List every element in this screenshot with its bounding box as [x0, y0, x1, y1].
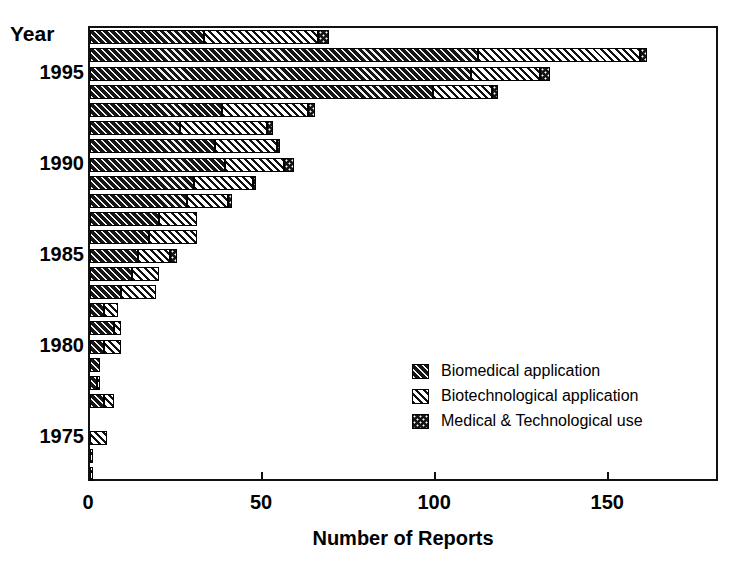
bar-segment-biotechnological: [132, 267, 160, 281]
bar-row: [90, 394, 114, 408]
x-tick-mark: [261, 472, 263, 481]
bar-row: [90, 267, 159, 281]
x-tick-mark: [607, 472, 609, 481]
bar-segment-medical-technological: [308, 103, 315, 117]
bar-segment-biomedical: [90, 48, 478, 62]
bar-segment-biomedical: [90, 321, 114, 335]
bar-segment-medical-technological: [640, 48, 647, 62]
bar-segment-biotechnological: [215, 139, 277, 153]
bar-segment-biotechnological: [194, 176, 253, 190]
bar-segment-biomedical: [90, 267, 132, 281]
y-tick-label: 1975: [0, 424, 84, 447]
bar-row: [90, 30, 329, 44]
bar-segment-biotechnological: [114, 321, 121, 335]
bar-segment-medical-technological: [277, 139, 280, 153]
bar-segment-biomedical: [90, 176, 194, 190]
bar-segment-biomedical: [90, 85, 433, 99]
legend-label-biomedical: Biomedical application: [441, 362, 600, 380]
bar-row: [90, 249, 177, 263]
bar-segment-biotechnological: [104, 394, 114, 408]
bar-chart: Year 19751980198519901995 050100150 Numb…: [0, 0, 751, 575]
bar-segment-medical-technological: [318, 30, 328, 44]
bar-row: [90, 340, 121, 354]
bar-segment-biotechnological: [187, 194, 229, 208]
bar-segment-biotechnological: [222, 103, 309, 117]
bar-segment-biomedical: [90, 376, 97, 390]
bar-row: [90, 303, 118, 317]
bar-segment-biomedical: [90, 394, 104, 408]
x-tick-label: 0: [82, 491, 93, 514]
bar-row: [90, 121, 273, 135]
x-tick-label: 150: [591, 491, 624, 514]
bar-segment-medical-technological: [228, 194, 231, 208]
bar-segment-biomedical: [90, 230, 149, 244]
legend-item-biomedical: Biomedical application: [412, 362, 643, 380]
x-tick-label: 50: [250, 491, 272, 514]
bar-segment-medical-technological: [284, 158, 294, 172]
bar-row: [90, 230, 197, 244]
bar-row: [90, 194, 232, 208]
legend-item-biotechnological: Biotechnological application: [412, 387, 643, 405]
bar-row: [90, 48, 647, 62]
bar-segment-biomedical: [90, 285, 121, 299]
bar-segment-biomedical: [90, 358, 100, 372]
x-axis-title: Number of Reports: [88, 527, 718, 550]
bar-segment-biotechnological: [90, 431, 107, 445]
bar-segment-biotechnological: [104, 340, 121, 354]
y-tick-label: 1980: [0, 333, 84, 356]
bar-segment-biomedical: [90, 158, 225, 172]
x-tick-label: 100: [417, 491, 450, 514]
bar-row: [90, 212, 197, 226]
bar-segment-biomedical: [90, 303, 104, 317]
legend-label-medical-technological: Medical & Technological use: [441, 412, 643, 430]
bar-segment-biotechnological: [478, 48, 641, 62]
y-tick-label: 1995: [0, 60, 84, 83]
bar-row: [90, 449, 93, 463]
bar-segment-biomedical: [90, 194, 187, 208]
bar-segment-biotechnological: [121, 285, 156, 299]
bar-segment-biotechnological: [97, 376, 100, 390]
bar-row: [90, 158, 294, 172]
bar-segment-medical-technological: [253, 176, 256, 190]
x-axis-ticks: 050100150: [88, 481, 718, 493]
y-tick-label: 1990: [0, 151, 84, 174]
bar-row: [90, 67, 550, 81]
legend-swatch-biotechnological-icon: [412, 389, 429, 404]
legend-label-biotechnological: Biotechnological application: [441, 387, 638, 405]
bar-segment-biotechnological: [159, 212, 197, 226]
bar-row: [90, 321, 121, 335]
bar-segment-biomedical: [90, 30, 204, 44]
legend-item-medical-technological: Medical & Technological use: [412, 412, 643, 430]
bar-segment-biotechnological: [204, 30, 318, 44]
bar-segment-biomedical: [90, 121, 180, 135]
bar-row: [90, 358, 100, 372]
bar-row: [90, 376, 100, 390]
y-axis-tick-labels: 19751980198519901995: [0, 0, 84, 575]
bar-row: [90, 467, 93, 481]
bar-row: [90, 176, 256, 190]
bar-row: [90, 85, 498, 99]
y-tick-label: 1985: [0, 242, 84, 265]
bar-segment-biotechnological: [149, 230, 197, 244]
legend: Biomedical application Biotechnological …: [412, 362, 643, 430]
bar-row: [90, 431, 107, 445]
legend-swatch-medical-technological-icon: [412, 414, 429, 429]
legend-swatch-biomedical-icon: [412, 364, 429, 379]
bar-segment-biotechnological: [471, 67, 540, 81]
bar-segment-biomedical: [90, 340, 104, 354]
bar-segment-biotechnological: [90, 467, 93, 481]
bar-segment-medical-technological: [170, 249, 177, 263]
bar-segment-biomedical: [90, 249, 138, 263]
bar-segment-medical-technological: [492, 85, 499, 99]
bar-row: [90, 285, 156, 299]
bar-segment-biotechnological: [90, 449, 93, 463]
x-tick-mark: [88, 472, 90, 481]
bar-segment-biotechnological: [433, 85, 492, 99]
bar-segment-biotechnological: [180, 121, 267, 135]
bar-segment-biotechnological: [104, 303, 118, 317]
bar-row: [90, 139, 280, 153]
x-tick-mark: [434, 472, 436, 481]
bar-segment-biotechnological: [138, 249, 169, 263]
bar-segment-biomedical: [90, 103, 222, 117]
bar-segment-biomedical: [90, 67, 471, 81]
